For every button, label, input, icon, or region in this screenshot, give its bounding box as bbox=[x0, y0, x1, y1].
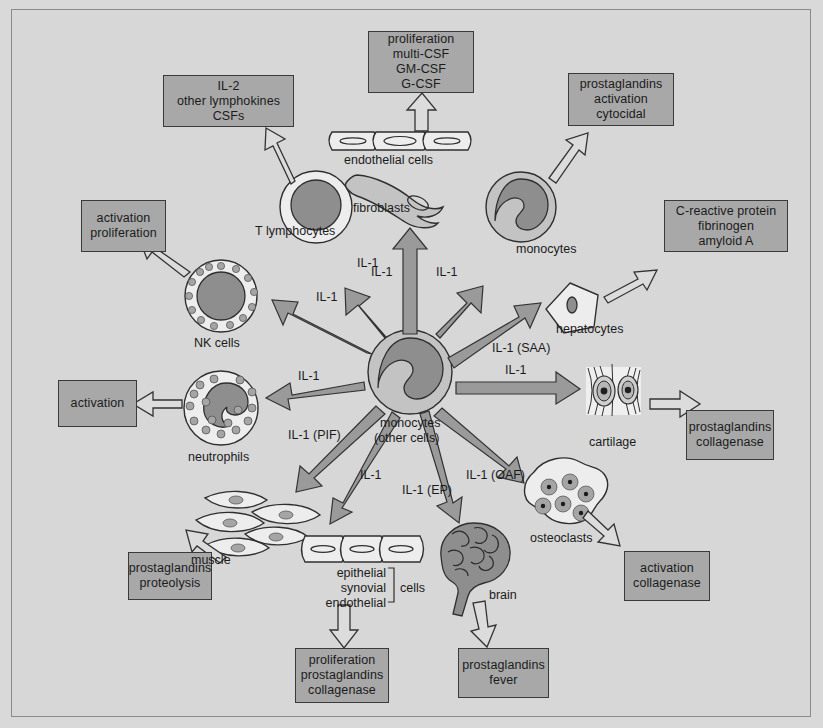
arrow-open-brain-to-feverbox bbox=[471, 601, 496, 647]
arrow-label-il1-nkcells: IL-1 bbox=[316, 290, 338, 305]
box-line: proteolysis bbox=[140, 576, 201, 591]
box-activation-collagenase: activation collagenase bbox=[624, 551, 710, 601]
box-line: proliferation bbox=[90, 226, 157, 241]
arrow-label-il1-pif: IL-1 (PIF) bbox=[288, 428, 341, 443]
cell-label-t-lymphocytes: T lymphocytes bbox=[255, 224, 335, 239]
arrow-il1-to-t-lymphocytes bbox=[345, 288, 386, 338]
box-proliferation-csf: proliferation multi-CSF GM-CSF G-CSF bbox=[368, 31, 474, 93]
nk-cell-drawing bbox=[185, 260, 258, 332]
box-il2-lymphokines: IL-2 other lymphokines CSFs bbox=[163, 75, 294, 127]
box-line: amyloid A bbox=[698, 234, 753, 249]
box-line: other lymphokines bbox=[177, 94, 280, 109]
diagram-canvas: proliferation multi-CSF GM-CSF G-CSF IL-… bbox=[0, 0, 823, 728]
cell-label-hepatocytes: hepatocytes bbox=[556, 322, 623, 337]
box-line: multi-CSF bbox=[393, 47, 449, 62]
arrow-label-il1-fibroblasts: IL-1 bbox=[371, 265, 393, 280]
box-acute-phase-proteins: C-reactive protein fibrinogen amyloid A bbox=[664, 200, 788, 252]
arrow-il1-to-fibroblasts bbox=[393, 228, 427, 334]
box-prostaglandins-collagenase: prostaglandins collagenase bbox=[686, 410, 774, 460]
osteoclasts-drawing bbox=[525, 458, 608, 524]
center-label-line1: monocytes bbox=[380, 416, 440, 431]
box-prostaglandins-activation-cytocidal: prostaglandins activation cytocidal bbox=[568, 73, 674, 126]
cell-label-cells-bracket: cells bbox=[400, 581, 425, 596]
cell-label-synovial: synovial bbox=[306, 581, 386, 596]
cell-label-nk-cells: NK cells bbox=[194, 336, 240, 351]
box-line: collagenase bbox=[696, 435, 764, 450]
cell-label-endothelial-cells: endothelial cells bbox=[344, 153, 433, 168]
cell-label-epithelial: epithelial bbox=[306, 566, 386, 581]
arrow-il1-to-neutrophils bbox=[266, 382, 365, 410]
box-line: activation bbox=[71, 396, 125, 411]
arrow-open-neut-to-activationbox bbox=[133, 392, 182, 416]
center-label-line2: (other cells) bbox=[374, 431, 439, 446]
box-activation: activation bbox=[58, 380, 137, 427]
box-line: fever bbox=[489, 673, 517, 688]
box-line: prostaglandins bbox=[462, 658, 545, 673]
cell-label-monocytes: monocytes bbox=[516, 242, 576, 257]
cartilage-drawing bbox=[586, 364, 641, 416]
box-prostaglandins-fever: prostaglandins fever bbox=[458, 648, 549, 698]
cell-label-cartilage: cartilage bbox=[589, 435, 636, 450]
arrow-label-il1-cartilage: IL-1 bbox=[505, 363, 527, 378]
box-line: prostaglandins bbox=[580, 77, 663, 92]
box-line: cytocidal bbox=[596, 107, 646, 122]
box-line: prostaglandins bbox=[301, 668, 384, 683]
monocyte-drawing bbox=[486, 172, 556, 242]
cell-label-neutrophils: neutrophils bbox=[188, 450, 249, 465]
cell-label-brain: brain bbox=[489, 588, 517, 603]
box-line: C-reactive protein bbox=[676, 204, 776, 219]
box-line: CSFs bbox=[213, 109, 245, 124]
box-line: G-CSF bbox=[401, 77, 440, 92]
arrow-label-il1-oaf: IL-1 (OAF) bbox=[466, 468, 525, 483]
box-line: fibrinogen bbox=[698, 219, 754, 234]
arrow-open-tlymph-to-il2box bbox=[265, 128, 295, 184]
cell-label-muscle: muscle bbox=[191, 553, 231, 568]
arrow-open-fibro-to-csfbox bbox=[407, 93, 436, 131]
arrow-label-il1-ep: IL-1 (EP) bbox=[402, 483, 452, 498]
arrow-label-il1-neutrophils: IL-1 bbox=[298, 369, 320, 384]
box-line: proliferation bbox=[309, 653, 376, 668]
center-monocyte-drawing bbox=[368, 330, 452, 414]
arrow-il1-to-monocytes bbox=[436, 286, 483, 338]
arrow-label-il1-monocytes: IL-1 bbox=[436, 265, 458, 280]
box-line: activation bbox=[97, 211, 151, 226]
box-line: collagenase bbox=[308, 683, 376, 698]
box-line: IL-2 bbox=[218, 79, 240, 94]
arrow-open-monocytes-to-prostbox bbox=[549, 133, 588, 183]
box-proliferation-prostaglandins-collagenase: proliferation prostaglandins collagenase bbox=[295, 648, 389, 703]
box-line: proliferation bbox=[388, 32, 455, 47]
arrow-label-il1-saa: IL-1 (SAA) bbox=[492, 341, 550, 356]
box-line: collagenase bbox=[633, 576, 701, 591]
box-line: prostaglandins bbox=[689, 420, 772, 435]
box-line: GM-CSF bbox=[396, 62, 446, 77]
diagram-artwork bbox=[0, 0, 823, 728]
box-line: activation bbox=[640, 561, 694, 576]
box-line: activation bbox=[594, 92, 648, 107]
neutrophil-drawing bbox=[184, 371, 258, 445]
arrow-label-il1-epithelial: IL-1 bbox=[360, 468, 382, 483]
cell-label-fibroblasts: fibroblasts bbox=[353, 201, 410, 216]
cell-label-osteoclasts: osteoclasts bbox=[530, 531, 593, 546]
cell-label-endothelial: endothelial bbox=[306, 596, 386, 611]
box-activation-proliferation: activation proliferation bbox=[81, 200, 166, 252]
arrow-open-epith-to-prolbox bbox=[330, 605, 358, 648]
arrow-il1-to-nk-cells bbox=[272, 300, 372, 354]
arrow-open-hepato-to-acutebox bbox=[604, 270, 657, 303]
endothelial-cells-drawing bbox=[329, 132, 471, 150]
epithelial-cells-drawing bbox=[302, 536, 424, 562]
